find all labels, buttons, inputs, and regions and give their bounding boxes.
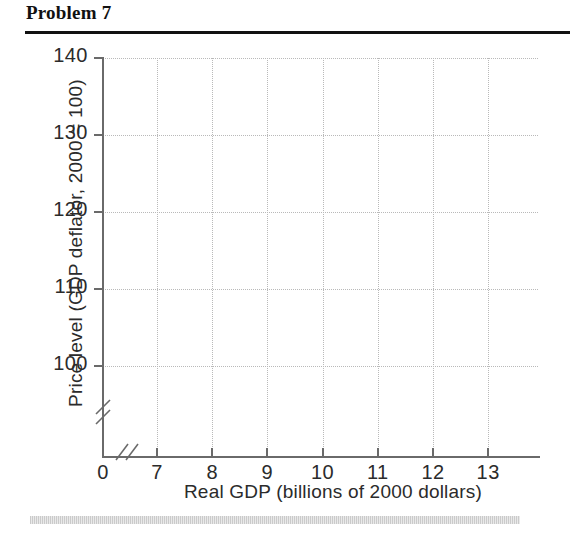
x-axis-tick <box>156 448 158 457</box>
gridline-vertical <box>157 58 158 457</box>
y-axis-tick <box>94 365 103 367</box>
y-axis-line <box>102 57 104 457</box>
gridline-horizontal <box>103 58 538 59</box>
y-axis-title: Price level (GDP deflator, 2000 = 100) <box>65 53 87 433</box>
gridline-horizontal <box>103 135 538 136</box>
gridline-vertical <box>378 58 379 457</box>
plot-area <box>103 58 538 457</box>
y-axis-tick <box>94 134 103 136</box>
x-axis-title: Real GDP (billions of 2000 dollars) <box>103 481 563 503</box>
gridline-vertical <box>212 58 213 457</box>
gridline-vertical <box>323 58 324 457</box>
footer-decoration-bar <box>30 516 520 524</box>
gridline-vertical <box>488 58 489 457</box>
x-axis-tick <box>377 448 379 457</box>
x-axis-tick <box>266 448 268 457</box>
problem-page: Problem 7 100110120130140078910111213 Re… <box>0 0 577 535</box>
y-axis-tick <box>94 211 103 213</box>
gridline-vertical <box>433 58 434 457</box>
x-axis-tick <box>487 448 489 457</box>
gridline-horizontal <box>103 212 538 213</box>
gridline-horizontal <box>103 366 538 367</box>
gridline-horizontal <box>103 289 538 290</box>
y-axis-break-icon <box>94 398 114 432</box>
gridline-vertical <box>267 58 268 457</box>
x-axis-break-icon <box>112 441 146 463</box>
chart-figure: 100110120130140078910111213 Real GDP (bi… <box>0 0 577 535</box>
y-axis-tick <box>94 288 103 290</box>
x-axis-tick <box>322 448 324 457</box>
x-axis-tick <box>211 448 213 457</box>
x-axis-tick <box>432 448 434 457</box>
y-axis-tick <box>94 57 103 59</box>
